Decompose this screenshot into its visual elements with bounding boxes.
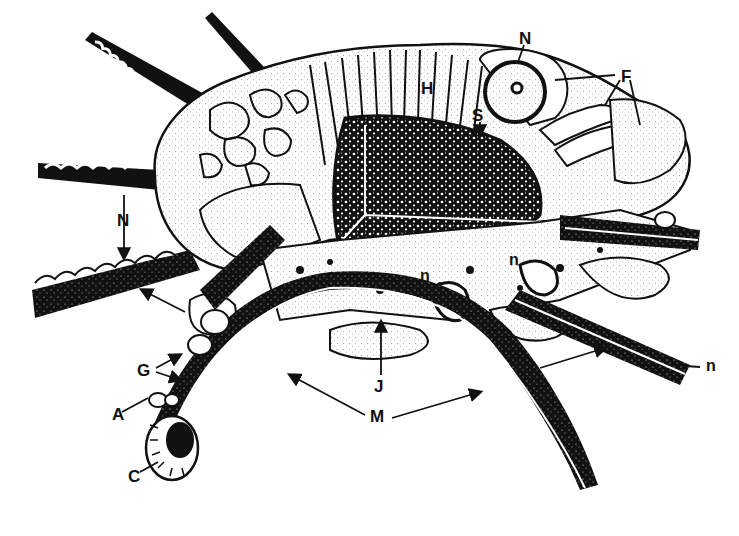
label-N-nucleus: N [519,30,531,47]
upper-tube [205,12,265,76]
label-N-left: N [117,212,129,229]
label-H: H [421,80,433,97]
label-S: S [472,107,483,124]
label-n-3: n [706,358,716,374]
label-F: F [621,68,631,85]
label-J: J [374,378,383,395]
label-M: M [370,408,384,425]
label-n-1: n [420,268,430,284]
left-lower-tube [32,250,200,318]
label-A: A [112,406,124,423]
left-upper-tube [38,163,160,190]
label-C: C [128,468,140,485]
label-G: G [137,362,150,379]
label-n-2: n [509,252,519,268]
